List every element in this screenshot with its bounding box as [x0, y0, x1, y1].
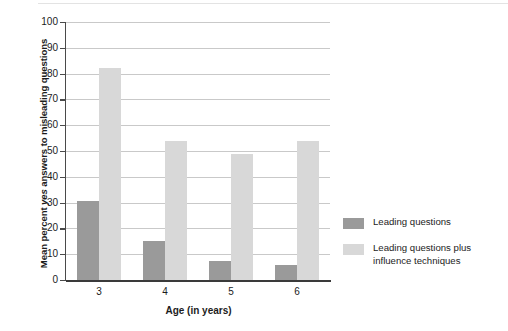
x-axis-tick-label-3: 3 — [79, 286, 119, 297]
y-axis-tick-label: 90 — [18, 43, 58, 53]
y-axis-tick-mark — [60, 151, 65, 152]
plot-area — [66, 22, 330, 280]
y-axis-tick-label: 40 — [18, 172, 58, 182]
chart-legend: Leading questionsLeading questions plus … — [343, 216, 503, 279]
y-axis-tick-mark — [60, 228, 65, 229]
x-axis-tick-label-6: 6 — [277, 286, 317, 297]
x-axis-tick-label-4: 4 — [145, 286, 185, 297]
x-axis-line — [66, 280, 331, 282]
y-axis-tick-label: 70 — [18, 94, 58, 104]
gridline — [66, 22, 330, 23]
bar-leading-questions-plus-influence-techniques-age-4 — [165, 141, 187, 280]
gridline — [66, 48, 330, 49]
y-axis-tick-label: 100 — [18, 17, 58, 27]
legend-item: Leading questions plus influence techniq… — [343, 242, 503, 267]
legend-label: Leading questions — [373, 216, 503, 229]
y-axis-tick-mark — [60, 99, 65, 100]
legend-swatch-icon — [343, 218, 364, 229]
legend-item: Leading questions — [343, 216, 503, 230]
bar-leading-questions-age-6 — [275, 265, 297, 280]
bar-leading-questions-age-3 — [77, 201, 99, 280]
x-axis-title: Age (in years) — [66, 305, 331, 316]
bar-leading-questions-plus-influence-techniques-age-3 — [99, 68, 121, 280]
y-axis-tick-mark — [60, 254, 65, 255]
y-axis-tick-mark — [60, 125, 65, 126]
legend-label: Leading questions plus influence techniq… — [373, 242, 503, 267]
bar-leading-questions-plus-influence-techniques-age-5 — [231, 154, 253, 280]
y-axis-tick-mark — [60, 280, 65, 281]
y-axis-tick-label: 50 — [18, 146, 58, 156]
y-axis-tick-label: 60 — [18, 120, 58, 130]
y-axis-tick-labels: 1009080706050403020100 — [12, 0, 58, 331]
y-axis-tick-label: 20 — [18, 223, 58, 233]
bar-leading-questions-age-4 — [143, 241, 165, 280]
y-axis-tick-label: 80 — [18, 69, 58, 79]
top-divider — [38, 3, 508, 4]
bar-leading-questions-plus-influence-techniques-age-6 — [297, 141, 319, 280]
y-axis-tick-mark — [60, 22, 65, 23]
bar-leading-questions-age-5 — [209, 261, 231, 280]
legend-swatch-icon — [343, 244, 364, 255]
y-axis-tick-label: 0 — [18, 275, 58, 285]
y-axis-tick-mark — [60, 203, 65, 204]
y-axis-tick-mark — [60, 177, 65, 178]
bar-chart-figure: Mean percent yes answers to misleading q… — [0, 0, 508, 331]
x-axis-tick-label-5: 5 — [211, 286, 251, 297]
y-axis-tick-mark — [60, 48, 65, 49]
y-axis-tick-mark — [60, 74, 65, 75]
y-axis-tick-label: 10 — [18, 249, 58, 259]
y-axis-tick-label: 30 — [18, 198, 58, 208]
